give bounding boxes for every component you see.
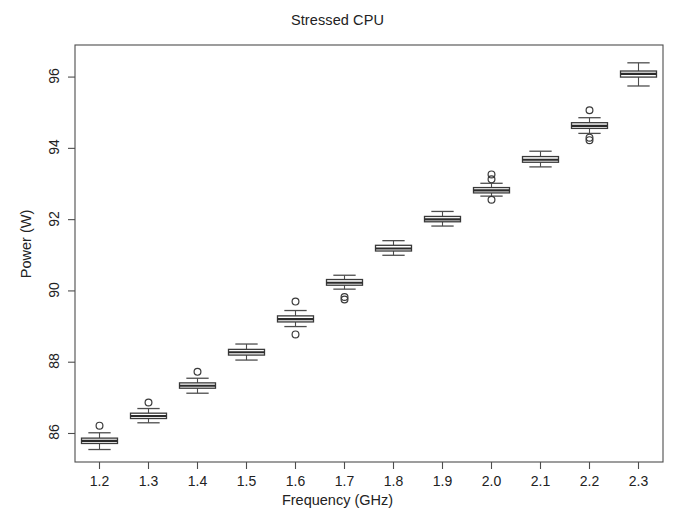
boxplot-box — [82, 422, 118, 449]
boxplot-box — [425, 211, 461, 226]
y-tick-label: 88 — [46, 346, 62, 376]
x-tick-label: 1.3 — [127, 473, 171, 489]
y-tick-label: 96 — [46, 61, 62, 91]
x-tick-label: 1.6 — [274, 473, 318, 489]
boxplot-box — [376, 241, 412, 256]
boxplot-box — [327, 275, 363, 303]
boxplot-box — [229, 344, 265, 360]
x-tick-label: 1.9 — [421, 473, 465, 489]
plot-frame — [75, 45, 663, 462]
boxplot-box — [131, 399, 167, 423]
x-tick-label: 2.0 — [470, 473, 514, 489]
y-tick-label: 94 — [46, 132, 62, 162]
x-tick-label: 1.5 — [225, 473, 269, 489]
boxplot-box — [474, 171, 510, 203]
x-tick-label: 2.1 — [519, 473, 563, 489]
boxplot-box — [278, 298, 314, 338]
y-tick-label: 92 — [46, 204, 62, 234]
outlier-point — [488, 176, 495, 183]
box-layer — [82, 63, 657, 450]
outlier-point — [488, 196, 495, 203]
boxplot-box — [621, 63, 657, 86]
x-tick-label: 1.2 — [78, 473, 122, 489]
x-tick-label: 2.3 — [617, 473, 661, 489]
boxplot-box — [572, 107, 608, 144]
outlier-point — [145, 399, 152, 406]
outlier-point — [292, 331, 299, 338]
x-tick-label: 1.4 — [176, 473, 220, 489]
boxplot-box — [523, 151, 559, 167]
x-tick-label: 2.2 — [568, 473, 612, 489]
y-tick-label: 86 — [46, 417, 62, 447]
y-tick-label: 90 — [46, 275, 62, 305]
outlier-point — [194, 368, 201, 375]
x-tick-label: 1.8 — [372, 473, 416, 489]
axis-layer — [68, 45, 663, 469]
outlier-point — [96, 422, 103, 429]
boxplot-box — [180, 368, 216, 393]
x-tick-label: 1.7 — [323, 473, 367, 489]
boxplot-canvas — [0, 0, 675, 522]
chart-root: Stressed CPU Power (W) Frequency (GHz) 8… — [0, 0, 675, 522]
outlier-point — [586, 107, 593, 114]
outlier-point — [292, 298, 299, 305]
